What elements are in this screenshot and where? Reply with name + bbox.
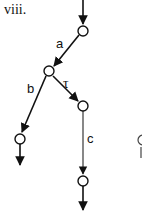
transition-tree-diagram: a b τ c [0,0,142,213]
partial-state-node [138,135,142,145]
state-node-after-tau [78,101,88,111]
state-node-after-a [44,66,54,76]
edge-label-c: c [87,131,94,146]
state-node-after-c [78,176,88,186]
edge-label-b: b [27,81,34,96]
state-node-after-b [15,134,25,144]
edge-label-tau: τ [63,76,69,91]
state-node-root [78,26,88,36]
edge-label-a: a [56,36,64,51]
